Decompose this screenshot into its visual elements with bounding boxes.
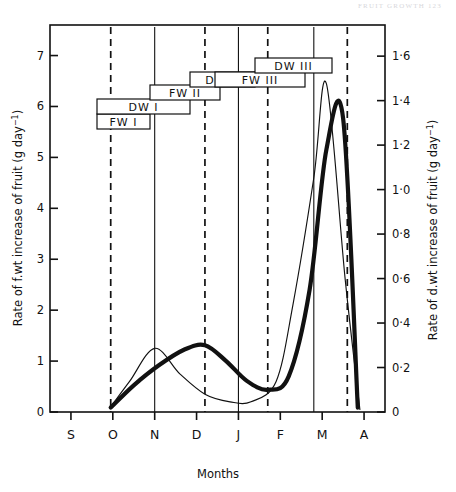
fresh-weight-curve bbox=[111, 81, 360, 409]
x-tick-label-1: O bbox=[108, 427, 118, 442]
x-axis-title: Months bbox=[197, 467, 239, 481]
left-axis-ticks bbox=[50, 56, 58, 412]
left-tick-label-4: 4 bbox=[37, 201, 44, 215]
right-axis-tick-labels: 00·20·40·60·81·01·21·41·6 bbox=[392, 49, 410, 419]
x-tick-label-0: S bbox=[67, 427, 75, 442]
right-tick-label-2: 0·4 bbox=[392, 316, 410, 330]
x-tick-label-5: F bbox=[277, 427, 284, 442]
dry-weight-curve bbox=[111, 101, 358, 408]
right-tick-label-8: 1·6 bbox=[392, 49, 410, 63]
left-tick-label-2: 2 bbox=[37, 303, 44, 317]
x-tick-label-2: N bbox=[150, 427, 159, 442]
left-axis-title: Rate of f.wt increase of fruit (g day−1) bbox=[11, 110, 25, 326]
left-tick-label-5: 5 bbox=[37, 150, 44, 164]
left-tick-label-3: 3 bbox=[37, 252, 44, 266]
stage-label-5: DW III bbox=[274, 60, 313, 73]
left-tick-label-7: 7 bbox=[37, 49, 44, 63]
right-tick-label-5: 1·0 bbox=[392, 183, 410, 197]
chart-svg: 01234567 00·20·40·60·81·01·21·41·6 SONDJ… bbox=[0, 0, 456, 492]
x-axis-tick-labels: SONDJFMA bbox=[67, 427, 369, 442]
left-tick-label-1: 1 bbox=[37, 354, 44, 368]
right-tick-label-0: 0 bbox=[392, 405, 399, 419]
x-tick-label-3: D bbox=[192, 427, 202, 442]
figure-container: FRUIT GROWTH 123 01234567 00·20·40·60·81… bbox=[0, 0, 456, 492]
stage-label-0: FW I bbox=[110, 116, 138, 129]
x-tick-label-4: J bbox=[236, 427, 241, 442]
stage-label-boxes: FW IDW IFW IIDW IIFW IIIDW III bbox=[97, 58, 332, 129]
left-axis-tick-labels: 01234567 bbox=[37, 49, 44, 419]
x-tick-label-7: A bbox=[360, 427, 369, 442]
x-axis-ticks bbox=[71, 412, 364, 420]
left-tick-label-6: 6 bbox=[37, 99, 44, 113]
x-tick-label-6: M bbox=[317, 427, 328, 442]
right-tick-label-1: 0·2 bbox=[392, 361, 410, 375]
stage-label-4: FW III bbox=[242, 74, 278, 87]
left-tick-label-0: 0 bbox=[37, 405, 44, 419]
right-tick-label-4: 0·8 bbox=[392, 227, 410, 241]
right-tick-label-3: 0·6 bbox=[392, 272, 410, 286]
running-head: FRUIT GROWTH 123 bbox=[358, 2, 442, 10]
stage-label-2: FW II bbox=[169, 87, 201, 100]
right-axis-title: Rate of d.wt increase of fruit (g day−1) bbox=[426, 120, 440, 340]
right-axis-ticks bbox=[377, 56, 385, 412]
stage-label-1: DW I bbox=[128, 101, 158, 114]
right-tick-label-6: 1·2 bbox=[392, 138, 410, 152]
right-tick-label-7: 1·4 bbox=[392, 94, 410, 108]
